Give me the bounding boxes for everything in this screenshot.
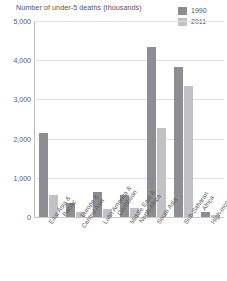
legend-label-1990: 1990 <box>191 7 207 14</box>
bar-group <box>197 21 224 217</box>
legend-swatch-1990 <box>178 7 187 15</box>
x-label-cell: South Asia <box>143 219 170 281</box>
chart-container: Number of under-5 deaths (thousands) 199… <box>0 0 227 281</box>
bar-group <box>89 21 116 217</box>
x-label-cell: High-income <box>197 219 224 281</box>
x-axis-tick-labels: East Asia &PacificEurope &Central AsiaLa… <box>35 219 224 281</box>
bar-2011[interactable] <box>157 128 166 217</box>
y-tick-label: 4,000 <box>13 57 31 64</box>
y-tick-label: 1,000 <box>13 174 31 181</box>
bar-group <box>170 21 197 217</box>
x-label-cell: Europe &Central Asia <box>62 219 89 281</box>
bar-1990[interactable] <box>174 67 183 217</box>
x-label-cell: East Asia &Pacific <box>35 219 62 281</box>
y-tick-label: 3,000 <box>13 96 31 103</box>
legend-item-1990[interactable]: 1990 <box>178 5 224 16</box>
bar-group <box>35 21 62 217</box>
x-label-cell: Middle East &North Africa <box>116 219 143 281</box>
y-tick-label: 0 <box>27 214 31 221</box>
bar-2011[interactable] <box>184 86 193 217</box>
y-tick-label: 5,000 <box>13 18 31 25</box>
bar-group <box>143 21 170 217</box>
chart-title: Number of under-5 deaths (thousands) <box>16 3 142 12</box>
x-label-cell: Latin America &Caribbean <box>89 219 116 281</box>
bar-group <box>62 21 89 217</box>
bar-1990[interactable] <box>39 133 48 217</box>
x-label-cell: Sub-SaharanAfrica <box>170 219 197 281</box>
y-tick-label: 2,000 <box>13 135 31 142</box>
